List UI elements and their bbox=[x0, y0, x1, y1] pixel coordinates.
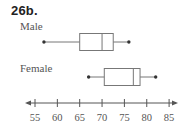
male-box bbox=[80, 34, 114, 51]
arrow-right-icon bbox=[172, 101, 178, 106]
axis-tick-label: 65 bbox=[74, 112, 85, 123]
box-plot-chart: 55606570758085 bbox=[0, 0, 190, 131]
female-max-dot bbox=[154, 75, 157, 78]
axis-tick-label: 80 bbox=[142, 112, 153, 123]
female-min-dot bbox=[87, 75, 90, 78]
axis-tick-label: 75 bbox=[119, 112, 130, 123]
male-max-dot bbox=[127, 40, 130, 43]
axis-tick-label: 55 bbox=[30, 112, 41, 123]
male-min-dot bbox=[42, 40, 45, 43]
arrow-left-icon bbox=[25, 101, 31, 106]
female-box bbox=[104, 69, 140, 86]
axis-tick-label: 60 bbox=[52, 112, 63, 123]
axis-tick-label: 85 bbox=[164, 112, 175, 123]
axis-tick-label: 70 bbox=[97, 112, 108, 123]
